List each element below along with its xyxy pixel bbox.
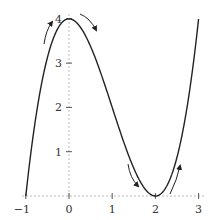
curve-line [26,19,199,196]
x-tick-label: 1 [109,203,116,216]
arrow-decreasing-icon [80,14,96,30]
x-tick-label: −1 [14,203,30,216]
y-tick-label: 1 [55,146,62,159]
x-tick-label: 0 [66,203,73,216]
arrow-increasing-icon [44,22,52,44]
arrow-increasing-icon [170,166,180,194]
function-plot: −10123 1234 [0,0,214,220]
x-tick-label: 3 [195,203,202,216]
y-tick-label: 2 [55,101,62,114]
y-tick-label: 3 [55,57,62,70]
x-tick-label: 2 [152,203,159,216]
